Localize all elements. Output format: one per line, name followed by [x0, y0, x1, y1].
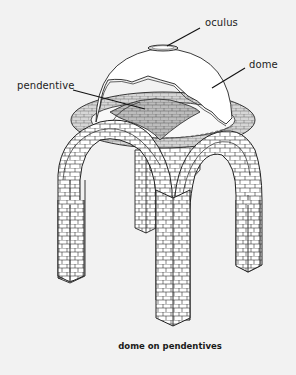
label-oculus: oculus [205, 17, 238, 28]
oculus [148, 45, 178, 51]
label-dome: dome [249, 59, 278, 70]
front-pillar [156, 190, 190, 326]
left-pillar [58, 200, 84, 282]
dome-illustration [0, 0, 296, 375]
figure-caption: dome on pendentives [0, 341, 296, 351]
right-pillar [236, 200, 260, 272]
diagram-figure: oculus dome pendentive dome on pendentiv… [0, 0, 296, 375]
label-pendentive: pendentive [17, 80, 74, 91]
oculus-leader-line [167, 28, 200, 46]
